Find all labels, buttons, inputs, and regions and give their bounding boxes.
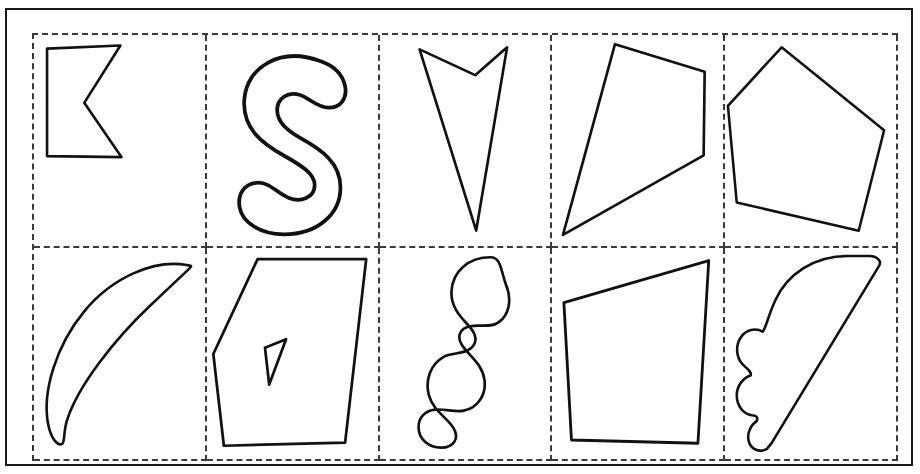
- shape-outline: [418, 257, 509, 447]
- grid-cell-5[interactable]: [725, 35, 898, 248]
- thick-s-curve-icon: [207, 35, 378, 246]
- shape-outline: [563, 44, 705, 235]
- shape-outline: [213, 259, 366, 446]
- grid-cell-3[interactable]: [380, 35, 553, 248]
- shape-outline: [564, 261, 709, 444]
- grid-cell-2[interactable]: [207, 35, 380, 248]
- shape-outline: [728, 47, 884, 231]
- worksheet-page: [0, 0, 920, 474]
- grid-cell-10[interactable]: [725, 248, 898, 461]
- shape-outline: [419, 47, 506, 230]
- crescent-leaf-curve-icon: [34, 248, 205, 459]
- cropped-header-text: [160, 0, 420, 6]
- shape-outline: [737, 256, 880, 451]
- grid-cell-4[interactable]: [552, 35, 725, 248]
- slanted-quadrilateral-kite-icon: [552, 35, 723, 246]
- grid-cell-7[interactable]: [207, 248, 380, 461]
- shape-outline: [47, 46, 121, 158]
- irregular-pentagon-icon: [725, 35, 896, 246]
- shape-outline: [47, 264, 191, 444]
- serpentine-squiggle-icon: [380, 248, 551, 459]
- grid-cell-8[interactable]: [380, 248, 553, 461]
- downward-dart-arrow-icon: [380, 35, 551, 246]
- shape-grid: [32, 33, 898, 461]
- concave-chevron-polygon-icon: [34, 35, 205, 246]
- polygon-with-triangular-hole-icon: [207, 248, 378, 459]
- scalloped-wedge-icon: [725, 248, 896, 459]
- grid-cell-9[interactable]: [552, 248, 725, 461]
- grid-cell-6[interactable]: [34, 248, 207, 461]
- outer-solid-frame: [5, 8, 913, 466]
- grid-cell-1[interactable]: [34, 35, 207, 248]
- tilted-trapezoid-icon: [552, 248, 723, 459]
- shape-outline: [239, 56, 345, 234]
